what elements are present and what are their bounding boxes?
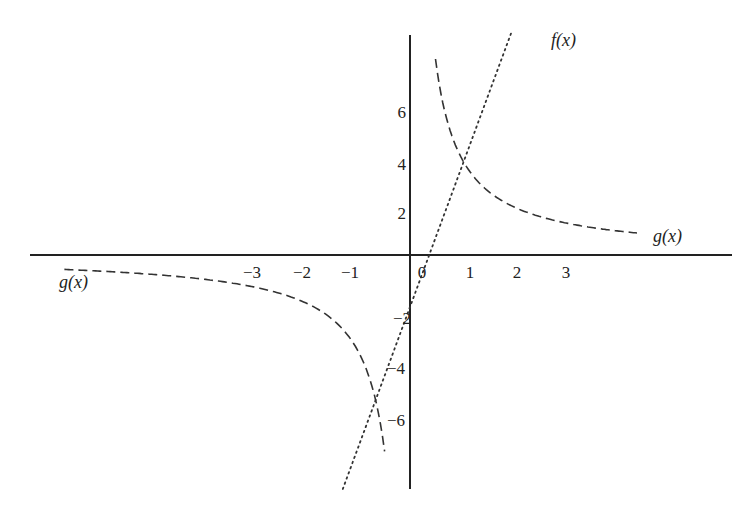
x-tick-label: −3: [243, 263, 261, 282]
g-label-left: g(x): [59, 272, 88, 293]
f-line: [343, 30, 512, 489]
x-tick-label: 3: [562, 263, 571, 282]
x-tick-label: 0: [418, 263, 427, 282]
g-upper-branch: [436, 59, 638, 233]
x-tick-label: 2: [513, 263, 522, 282]
x-tick-labels: −3 −2 −1 0 1 2 3: [243, 263, 570, 282]
y-tick-label: 4: [398, 155, 407, 174]
y-tick-label: −2: [393, 309, 411, 328]
x-tick-label: −1: [341, 263, 359, 282]
y-tick-label: 2: [398, 204, 407, 223]
g-label-right: g(x): [653, 226, 682, 247]
x-tick-label: 1: [466, 263, 475, 282]
y-tick-label: 6: [398, 103, 407, 122]
y-tick-label: −6: [387, 411, 405, 430]
g-lower-branch: [64, 269, 384, 451]
y-tick-labels: 6 4 2 −2 −4 −6: [387, 103, 411, 430]
y-tick-label: −4: [387, 359, 406, 378]
f-label: f(x): [551, 30, 576, 51]
function-plot: −3 −2 −1 0 1 2 3 6 4 2 −2 −4 −6 f(x) g(x…: [0, 0, 732, 515]
x-tick-label: −2: [293, 263, 311, 282]
